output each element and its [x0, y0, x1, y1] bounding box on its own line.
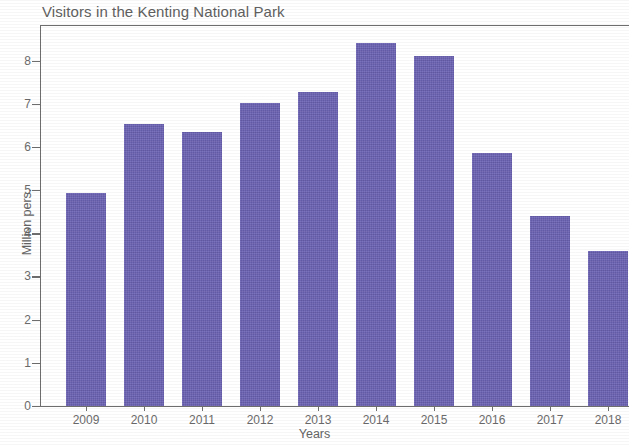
y-tick-label-2: 2 — [24, 313, 31, 327]
y-tick-6 — [32, 147, 40, 148]
x-tick-label-2014: 2014 — [346, 413, 406, 427]
bar-rect-2012 — [240, 103, 280, 406]
chart-title: Visitors in the Kenting National Park — [42, 3, 285, 20]
x-tick-2012 — [260, 406, 261, 411]
x-tick-label-2012: 2012 — [230, 413, 290, 427]
plot-area — [41, 26, 629, 406]
x-tick-label-2010: 2010 — [114, 413, 174, 427]
bar-rect-2011 — [182, 132, 222, 406]
x-tick-label-2017: 2017 — [520, 413, 580, 427]
x-tick-2017 — [550, 406, 551, 411]
bar-rect-2015 — [414, 56, 454, 406]
bar-rect-2009 — [66, 193, 106, 406]
y-tick-1 — [32, 363, 40, 364]
x-tick-2013 — [318, 406, 319, 411]
x-tick-label-2009: 2009 — [56, 413, 116, 427]
y-tick-label-7: 7 — [24, 97, 31, 111]
bar-rect-2010 — [124, 124, 164, 406]
x-tick-2015 — [434, 406, 435, 411]
bar-rect-2018 — [588, 251, 628, 406]
x-tick-2018 — [608, 406, 609, 411]
x-tick-label-2015: 2015 — [404, 413, 464, 427]
bar-rect-2014 — [356, 43, 396, 406]
y-tick-label-8: 8 — [24, 54, 31, 68]
y-tick-7 — [32, 104, 40, 105]
y-tick-label-0: 0 — [24, 399, 31, 413]
y-tick-8 — [32, 61, 40, 62]
y-axis-label: Million pers. — [20, 167, 34, 277]
x-tick-label-2011: 2011 — [172, 413, 232, 427]
x-tick-2014 — [376, 406, 377, 411]
bar-chart-figure: Visitors in the Kenting National Park 01… — [0, 0, 629, 445]
y-tick-0 — [32, 406, 40, 407]
x-tick-label-2016: 2016 — [462, 413, 522, 427]
x-tick-2009 — [86, 406, 87, 411]
bar-rect-2013 — [298, 92, 338, 406]
y-tick-label-6: 6 — [24, 140, 31, 154]
x-axis-label: Years — [0, 427, 629, 441]
y-tick-label-1: 1 — [24, 356, 31, 370]
bar-rect-2016 — [472, 153, 512, 406]
x-tick-2011 — [202, 406, 203, 411]
x-tick-label-2013: 2013 — [288, 413, 348, 427]
y-tick-2 — [32, 320, 40, 321]
x-tick-2010 — [144, 406, 145, 411]
x-tick-label-2018: 2018 — [578, 413, 629, 427]
bar-rect-2017 — [530, 216, 570, 406]
x-tick-2016 — [492, 406, 493, 411]
